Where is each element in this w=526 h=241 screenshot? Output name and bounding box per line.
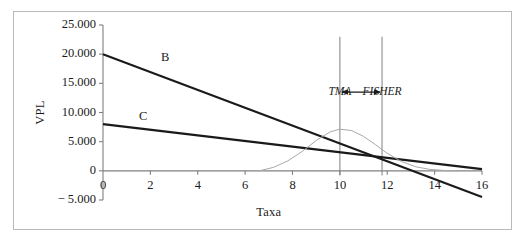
x-tick-label: 10 [325, 178, 355, 193]
y-tick-label: 15.000 [36, 75, 96, 90]
y-tick-label: 25.000 [36, 17, 96, 32]
x-tick-label: 6 [230, 178, 260, 193]
marker-label-fisher: FISHER [347, 85, 417, 97]
x-tick-label: 2 [135, 178, 165, 193]
chart-figure: VPL Taxa 25.00020.00015.00010.0005.0000−… [0, 0, 526, 241]
series-label-c: C [139, 109, 147, 124]
y-tick-label: 5.000 [36, 134, 96, 149]
y-tick-label: 0 [36, 163, 96, 178]
x-axis-title: Taxa [239, 205, 299, 220]
x-tick-label: 12 [372, 178, 402, 193]
y-tick-label: 10.000 [36, 105, 96, 120]
x-tick-label: 0 [88, 178, 118, 193]
y-tick-label: 20.000 [36, 46, 96, 61]
series-line-c [103, 124, 482, 169]
series-line-b [103, 54, 482, 197]
x-tick-label: 8 [278, 178, 308, 193]
y-tick-label: − 5.000 [36, 192, 96, 207]
x-tick-label: 14 [420, 178, 450, 193]
x-tick-label: 4 [183, 178, 213, 193]
x-tick-label: 16 [467, 178, 497, 193]
series-label-b: B [161, 50, 169, 65]
